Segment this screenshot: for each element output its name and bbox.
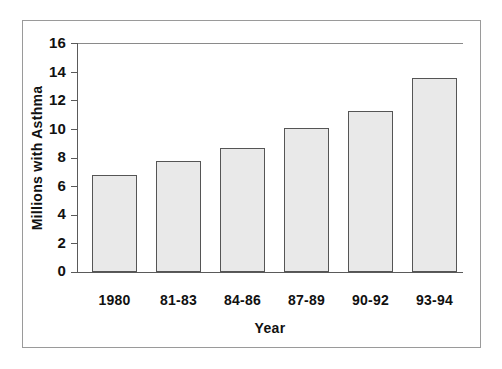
- x-axis-tick-label-90-92: 90-92: [340, 292, 401, 308]
- bar-84-86[interactable]: [220, 148, 265, 273]
- y-axis-line: [77, 43, 78, 272]
- x-axis-tick-label-93-94: 93-94: [404, 292, 465, 308]
- plot-top-border-line: [77, 43, 463, 44]
- chart-figure: 16 14 12 10 8 6 4 2 0 1980 81-83 84-86 8…: [0, 0, 502, 369]
- bar-81-83[interactable]: [156, 161, 201, 272]
- bar-1980[interactable]: [92, 175, 137, 272]
- bar-90-92[interactable]: [348, 111, 393, 273]
- x-axis-tick-label-1980: 1980: [84, 292, 145, 308]
- x-axis-baseline: [77, 272, 463, 273]
- x-axis-title: Year: [77, 320, 463, 336]
- y-axis-title: Millions with Asthma: [29, 48, 45, 268]
- x-axis-tick-label-87-89: 87-89: [276, 292, 337, 308]
- bar-87-89[interactable]: [284, 128, 329, 273]
- x-axis-tick-label-84-86: 84-86: [212, 292, 273, 308]
- bar-93-94[interactable]: [412, 78, 457, 272]
- x-axis-tick-label-81-83: 81-83: [148, 292, 209, 308]
